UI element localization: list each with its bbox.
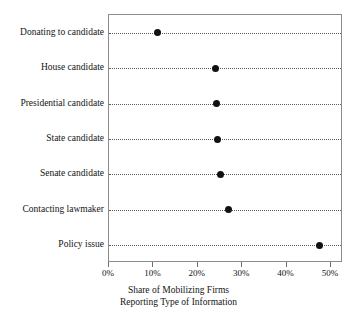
x-tick-label: 20% xyxy=(189,268,206,278)
category-label: Policy issue xyxy=(0,239,104,249)
row-guide-line xyxy=(109,104,341,106)
x-tick-label: 30% xyxy=(233,268,250,278)
x-axis-title: Share of Mobilizing Firms Reporting Type… xyxy=(0,284,357,308)
x-axis-title-line-2: Reporting Type of Information xyxy=(0,296,357,308)
data-point xyxy=(214,136,221,143)
row-guide-line xyxy=(109,68,341,70)
data-point xyxy=(225,206,232,213)
x-axis-title-line-1: Share of Mobilizing Firms xyxy=(0,284,357,296)
row-guide-line xyxy=(109,139,341,141)
x-tick-mark xyxy=(330,262,331,267)
x-tick-mark xyxy=(152,262,153,267)
row-guide-line xyxy=(109,33,341,35)
x-tick-label: 50% xyxy=(322,268,339,278)
data-point xyxy=(217,171,224,178)
category-label: Contacting lawmaker xyxy=(0,204,104,214)
x-tick-label: 10% xyxy=(144,268,161,278)
row-guide-line xyxy=(109,245,341,247)
y-axis-category-labels: Donating to candidateHouse candidatePres… xyxy=(0,14,104,262)
x-tick-mark xyxy=(108,262,109,267)
category-label: State candidate xyxy=(0,133,104,143)
x-tick-mark xyxy=(197,262,198,267)
x-tick-label: 40% xyxy=(277,268,294,278)
x-tick-mark xyxy=(241,262,242,267)
plot-area xyxy=(108,14,342,262)
category-label: Presidential candidate xyxy=(0,98,104,108)
data-point xyxy=(213,100,220,107)
category-label: House candidate xyxy=(0,62,104,72)
category-label: Donating to candidate xyxy=(0,27,104,37)
x-tick-mark xyxy=(286,262,287,267)
data-point xyxy=(316,242,323,249)
data-point xyxy=(154,29,161,36)
category-label: Senate candidate xyxy=(0,168,104,178)
dot-plot-figure: Donating to candidateHouse candidatePres… xyxy=(0,0,357,321)
data-point xyxy=(212,65,219,72)
x-tick-label: 0% xyxy=(102,268,114,278)
row-guide-line xyxy=(109,174,341,176)
